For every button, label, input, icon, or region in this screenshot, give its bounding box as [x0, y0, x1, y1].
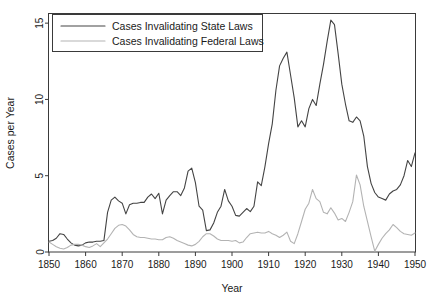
y-tick-label: 0	[35, 249, 46, 255]
x-tick-label: 1870	[111, 259, 134, 270]
y-tick-label: 10	[35, 93, 46, 105]
y-axis-ticks: 051015	[35, 17, 50, 255]
chart-legend: Cases Invalidating State Laws Cases Inva…	[53, 15, 264, 52]
x-tick-label: 1860	[74, 259, 97, 270]
y-tick-label: 15	[35, 17, 46, 29]
y-axis-title: Cases per Year	[4, 97, 16, 169]
x-axis-title: Year	[221, 282, 243, 294]
x-tick-label: 1940	[367, 259, 390, 270]
x-axis-ticks: 1850186018701880189019001910192019301940…	[38, 252, 427, 270]
x-tick-label: 1930	[331, 259, 354, 270]
data-series-group	[49, 20, 415, 251]
series-path-state-laws	[49, 20, 415, 246]
legend-label-state-laws: Cases Invalidating State Laws	[112, 20, 253, 32]
x-tick-label: 1910	[257, 259, 280, 270]
y-tick-label: 5	[35, 172, 46, 178]
cases-per-year-line-chart: 1850186018701880189019001910192019301940…	[0, 0, 431, 304]
x-tick-label: 1900	[221, 259, 244, 270]
x-tick-label: 1880	[148, 259, 171, 270]
chart-container: 1850186018701880189019001910192019301940…	[0, 0, 431, 304]
x-tick-label: 1950	[404, 259, 427, 270]
legend-label-federal-laws: Cases Invalidating Federal Laws	[112, 35, 264, 47]
x-tick-label: 1850	[38, 259, 61, 270]
x-tick-label: 1920	[294, 259, 317, 270]
x-tick-label: 1890	[184, 259, 207, 270]
